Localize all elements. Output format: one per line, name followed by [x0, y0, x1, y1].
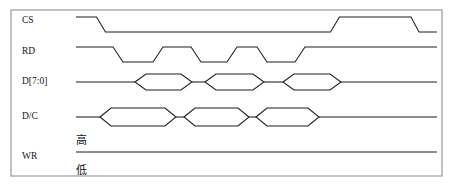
signal-label-data-bus: D[7:0]: [22, 76, 47, 86]
waveform-rd: [76, 47, 437, 62]
waveform-d-7-0--packet-2: [205, 74, 264, 90]
signal-label-rd: RD: [22, 46, 35, 56]
waveform-d-7-0--packet-3: [283, 74, 341, 90]
waveform-cs: [76, 17, 437, 32]
waveform-d-c-packet-1: [100, 108, 176, 126]
waveform-layer: [76, 17, 437, 152]
diagram-border: [11, 10, 442, 176]
signal-label-dc: D/C: [22, 111, 38, 121]
signal-label-cs: CS: [22, 15, 34, 25]
signal-label-wr: WR: [22, 151, 38, 161]
waveform-d-c-packet-3: [256, 108, 319, 126]
waveform-d-c-packet-2: [184, 108, 249, 126]
waveform-d-7-0--packet-1: [135, 74, 192, 90]
level-label-low: 低: [76, 164, 87, 177]
timing-diagram-svg: CS RD D[7:0] D/C WR 高 低: [0, 0, 453, 186]
level-label-high: 高: [76, 133, 87, 147]
timing-diagram-figure: CS RD D[7:0] D/C WR 高 低: [0, 0, 453, 186]
